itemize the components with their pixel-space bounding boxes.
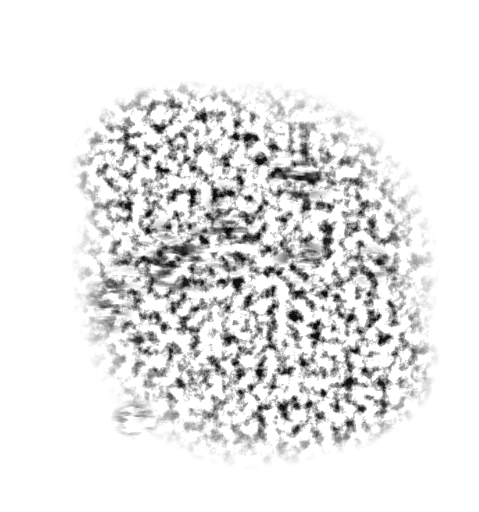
grunge-texture-graphic	[0, 0, 479, 512]
grunge-texture-canvas	[0, 0, 479, 512]
